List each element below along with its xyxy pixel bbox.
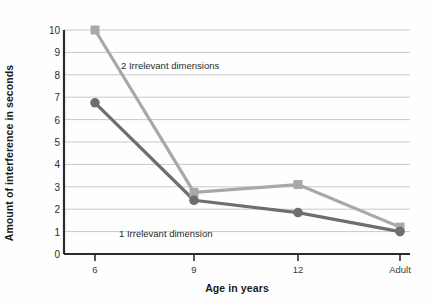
data-point-marker-square [91, 26, 100, 35]
series-line-1 [95, 103, 400, 232]
gridlines-group [64, 30, 410, 232]
y-tick-label: 6 [38, 114, 60, 125]
chart-figure: Amount of interference in seconds 012345… [0, 0, 432, 306]
y-tick-label: 8 [38, 69, 60, 80]
y-tick-label: 0 [38, 249, 60, 260]
y-tick-label: 4 [38, 159, 60, 170]
y-tick-label: 1 [38, 226, 60, 237]
x-axis-title: Age in years [64, 282, 410, 294]
series-label-0: 2 Irrelevant dimensions [121, 60, 219, 71]
line-chart-plot [0, 0, 432, 306]
x-tick-label: Adult [389, 264, 411, 275]
data-point-marker-circle [90, 98, 100, 108]
y-tick-label: 2 [38, 204, 60, 215]
y-tick-label: 3 [38, 181, 60, 192]
x-tick-label: 12 [293, 264, 304, 275]
x-tick-label: 6 [92, 264, 97, 275]
data-point-marker-square [294, 180, 303, 189]
y-tick-label: 9 [38, 47, 60, 58]
y-tick-label: 5 [38, 137, 60, 148]
data-series-group [90, 26, 405, 237]
series-label-1: 1 Irrelevant dimension [119, 228, 212, 239]
y-tick-label: 7 [38, 92, 60, 103]
x-tick-label: 9 [191, 264, 196, 275]
data-point-marker-circle [189, 195, 199, 205]
data-point-marker-circle [395, 227, 405, 237]
y-tick-label: 10 [38, 25, 60, 36]
data-point-marker-circle [293, 208, 303, 218]
